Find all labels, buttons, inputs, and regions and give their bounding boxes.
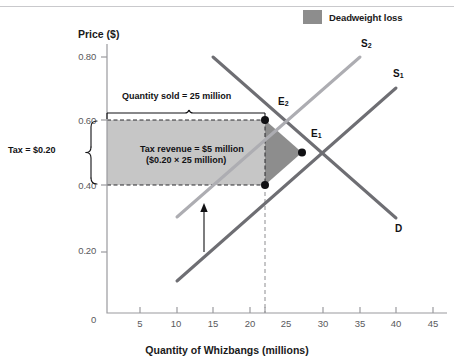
- point-label-e2-subscript: 2: [285, 100, 289, 107]
- point-e1: [298, 149, 306, 157]
- tax-revenue-annotation-line2: ($0.20 × 25 million): [146, 155, 226, 165]
- point-e2: [261, 116, 269, 124]
- quantity-sold-annotation: Quantity sold = 25 million: [122, 91, 231, 101]
- tax-revenue-annotation-line1: Tax revenue = $5 million: [140, 144, 244, 154]
- point-label-e1-text: E: [311, 128, 318, 139]
- supply-demand-tax-chart: Deadweight loss Price ($) Quantity of Wh…: [0, 0, 454, 364]
- point-supplier-price: [261, 181, 269, 189]
- curve-label-s1: S1: [393, 68, 404, 79]
- supply-shift-arrow: [200, 203, 207, 252]
- curve-label-s1-text: S: [393, 68, 400, 79]
- quantity-sold-bracket: [107, 110, 265, 119]
- point-label-e2: E2: [278, 96, 289, 107]
- curve-label-s2-subscript: 2: [368, 42, 372, 49]
- tax-amount-annotation: Tax = $0.20: [8, 145, 56, 155]
- point-label-e1: E1: [311, 128, 322, 139]
- y-axis-ticks: [101, 57, 107, 252]
- curve-label-s2-text: S: [361, 38, 368, 49]
- x-axis-ticks: [140, 307, 433, 313]
- point-label-e1-subscript: 1: [318, 132, 322, 139]
- plot-canvas: [0, 0, 454, 364]
- point-label-e2-text: E: [278, 96, 285, 107]
- curve-label-s2: S2: [361, 38, 372, 49]
- curve-label-d: D: [395, 223, 402, 234]
- curve-label-s1-subscript: 1: [400, 72, 404, 79]
- tax-brace: [86, 121, 97, 184]
